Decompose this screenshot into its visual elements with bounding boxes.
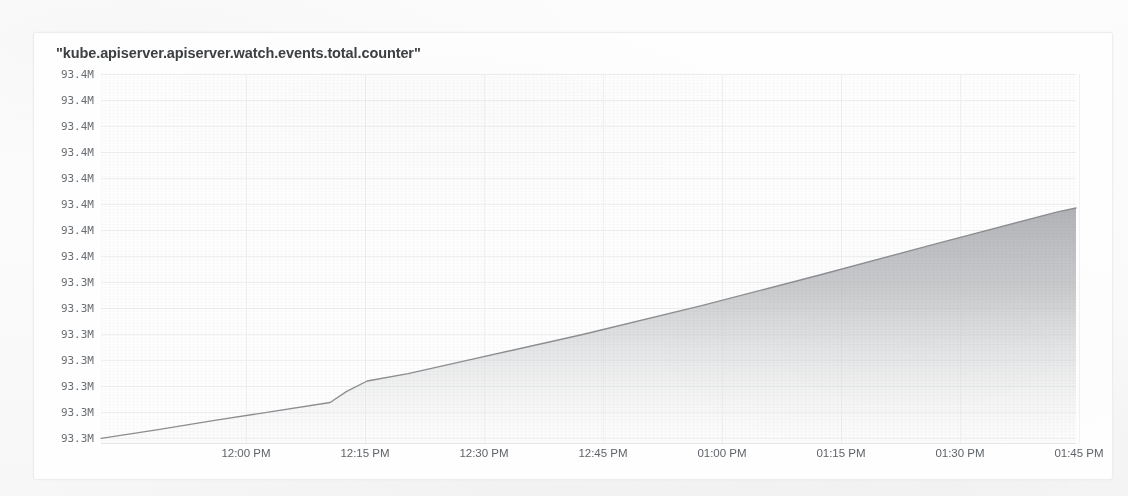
x-axis-tick-label: 01:30 PM [935, 447, 984, 459]
y-axis-tick-label: 93.4M [61, 250, 94, 263]
x-axis-tick-label: 01:00 PM [697, 447, 746, 459]
y-axis-tick-label: 93.3M [61, 432, 94, 445]
area-fill [101, 208, 1076, 444]
x-axis-tick-label: 12:00 PM [221, 447, 270, 459]
area-series [101, 74, 1076, 444]
page-title: "kube.apiserver.apiserver.watch.events.t… [56, 45, 421, 61]
y-axis-tick-label: 93.4M [61, 198, 94, 211]
y-axis-tick-label: 93.3M [61, 302, 94, 315]
y-axis-tick-label: 93.3M [61, 328, 94, 341]
x-axis-tick-label: 12:30 PM [459, 447, 508, 459]
y-axis-tick-label: 93.3M [61, 406, 94, 419]
x-axis-tick-label: 12:45 PM [578, 447, 627, 459]
gridline-vertical [1079, 74, 1080, 444]
x-axis-tick-label: 01:15 PM [816, 447, 865, 459]
y-axis-tick-label: 93.4M [61, 224, 94, 237]
x-axis-line [101, 443, 1076, 444]
y-axis-tick-label: 93.3M [61, 276, 94, 289]
y-axis-tick-label: 93.4M [61, 68, 94, 81]
y-axis-tick-label: 93.3M [61, 380, 94, 393]
plot-area[interactable] [101, 74, 1076, 444]
y-axis-tick-label: 93.4M [61, 94, 94, 107]
y-axis-tick-labels: 93.4M93.4M93.4M93.4M93.4M93.4M93.4M93.4M… [42, 74, 94, 444]
y-axis-tick-label: 93.4M [61, 120, 94, 133]
y-axis-tick-label: 93.4M [61, 146, 94, 159]
x-axis-tick-label: 01:45 PM [1054, 447, 1103, 459]
x-axis-tick-label: 12:15 PM [340, 447, 389, 459]
y-axis-tick-label: 93.4M [61, 172, 94, 185]
y-axis-tick-label: 93.3M [61, 354, 94, 367]
x-axis-tick-labels: 12:00 PM12:15 PM12:30 PM12:45 PM01:00 PM… [101, 447, 1076, 467]
chart-card: "kube.apiserver.apiserver.watch.events.t… [33, 32, 1113, 480]
